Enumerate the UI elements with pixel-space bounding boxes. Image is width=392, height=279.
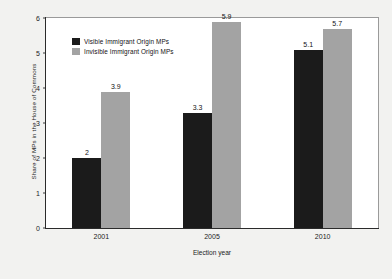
bar-value-label: 3.9 [111,83,121,90]
y-axis-tick-label: 4 [26,85,40,92]
bar-group: 5.15.7 [294,18,352,228]
bar-2005-series-1[interactable]: 3.3 [183,113,212,229]
x-axis-tick-label: 2001 [94,233,110,240]
legend-swatch-icon [72,48,80,55]
bar-value-label: 2 [85,149,89,156]
y-axis-tick-label: 3 [26,120,40,127]
legend-item[interactable]: Visible Immigrant Origin MPs [72,37,174,46]
chart-legend: Visible Immigrant Origin MPsInvisible Im… [72,37,174,57]
y-axis-tick-label: 2 [26,155,40,162]
y-axis-tick-label: 1 [26,190,40,197]
legend-item[interactable]: Invisible Immigrant Origin MPs [72,47,174,56]
x-axis-tick-label: 2010 [315,233,331,240]
bar-value-label: 5.9 [222,13,232,20]
bar-value-label: 3.3 [193,104,203,111]
bar-value-label: 5.1 [303,41,313,48]
y-axis-tick-labels: 0123456 [26,18,40,228]
x-axis-tick-labels: 200120052010 [46,233,378,245]
legend-swatch-icon [72,38,80,45]
bar-2005-series-2[interactable]: 5.9 [212,22,241,229]
y-axis-tick-label: 0 [26,225,40,232]
bar-chart-figure: Share of MPs in the House of Commons 012… [0,0,392,279]
bar-value-label: 5.7 [332,20,342,27]
bar-group: 3.35.9 [183,18,241,228]
bar-2010-series-2[interactable]: 5.7 [323,29,352,229]
legend-label: Invisible Immigrant Origin MPs [84,48,174,55]
y-axis-tick-label: 5 [26,50,40,57]
legend-label: Visible Immigrant Origin MPs [84,38,169,45]
x-axis-tick-label: 2005 [204,233,220,240]
bar-2010-series-1[interactable]: 5.1 [294,50,323,229]
bar-2001-series-2[interactable]: 3.9 [101,92,130,229]
bar-2001-series-1[interactable]: 2 [72,158,101,228]
x-axis-line [45,228,379,229]
y-axis-tick-label: 6 [26,15,40,22]
x-axis-title: Election year [45,249,379,256]
